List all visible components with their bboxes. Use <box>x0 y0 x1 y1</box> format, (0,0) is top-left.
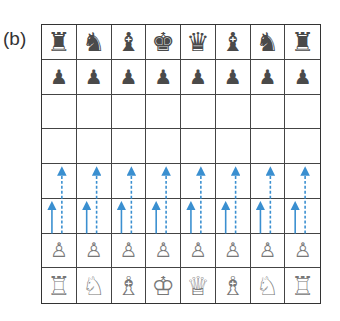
white-bishop-icon: ♗ <box>221 273 244 299</box>
board-square: ♟ <box>77 60 112 95</box>
board-square <box>112 129 147 164</box>
board-square <box>216 129 251 164</box>
board-square: ♙ <box>77 234 112 269</box>
board-square: ♟ <box>285 60 320 95</box>
black-pawn-icon: ♟ <box>294 67 312 87</box>
board-square: ♙ <box>216 234 251 269</box>
black-bishop-icon: ♝ <box>117 29 140 55</box>
board-square <box>285 95 320 130</box>
black-pawn-icon: ♟ <box>189 67 207 87</box>
board-square <box>216 164 251 199</box>
black-rook-icon: ♜ <box>47 29 70 55</box>
board-square: ♟ <box>181 60 216 95</box>
board-grid: ♜♞♝♚♛♝♞♜♟♟♟♟♟♟♟♟♙♙♙♙♙♙♙♙♖♘♗♔♕♗♘♖ <box>42 25 320 303</box>
board-square <box>77 199 112 234</box>
board-square: ♙ <box>251 234 286 269</box>
board-square: ♛ <box>181 25 216 60</box>
black-knight-icon: ♞ <box>82 29 105 55</box>
board-square <box>251 164 286 199</box>
board-square <box>285 129 320 164</box>
board-square: ♖ <box>285 268 320 303</box>
board-square <box>181 95 216 130</box>
black-knight-icon: ♞ <box>256 29 279 55</box>
white-pawn-icon: ♙ <box>189 240 207 260</box>
black-queen-icon: ♛ <box>186 29 209 55</box>
white-pawn-icon: ♙ <box>294 240 312 260</box>
board-square: ♞ <box>251 25 286 60</box>
white-pawn-icon: ♙ <box>85 240 103 260</box>
board-square: ♟ <box>112 60 147 95</box>
board-square <box>285 164 320 199</box>
board-square: ♞ <box>77 25 112 60</box>
white-rook-icon: ♖ <box>291 273 314 299</box>
board-square <box>77 164 112 199</box>
board-square <box>112 95 147 130</box>
board-square <box>146 129 181 164</box>
board-square: ♗ <box>216 268 251 303</box>
board-square <box>181 164 216 199</box>
black-king-icon: ♚ <box>151 29 174 55</box>
board-square: ♙ <box>112 234 147 269</box>
board-square: ♙ <box>181 234 216 269</box>
board-square: ♝ <box>112 25 147 60</box>
board-square: ♔ <box>146 268 181 303</box>
board-square: ♜ <box>285 25 320 60</box>
board-square: ♘ <box>251 268 286 303</box>
board-square <box>251 95 286 130</box>
black-pawn-icon: ♟ <box>119 67 137 87</box>
black-pawn-icon: ♟ <box>258 67 276 87</box>
black-pawn-icon: ♟ <box>50 67 68 87</box>
white-pawn-icon: ♙ <box>258 240 276 260</box>
board-square: ♟ <box>146 60 181 95</box>
board-square: ♝ <box>216 25 251 60</box>
board-square <box>181 199 216 234</box>
white-knight-icon: ♘ <box>82 273 105 299</box>
board-square: ♟ <box>216 60 251 95</box>
board-square <box>216 95 251 130</box>
board-square: ♟ <box>42 60 77 95</box>
board-square <box>181 129 216 164</box>
board-square: ♟ <box>251 60 286 95</box>
white-pawn-icon: ♙ <box>50 240 68 260</box>
black-bishop-icon: ♝ <box>221 29 244 55</box>
board-square: ♖ <box>42 268 77 303</box>
white-bishop-icon: ♗ <box>117 273 140 299</box>
board-square <box>216 199 251 234</box>
black-pawn-icon: ♟ <box>154 67 172 87</box>
board-square: ♜ <box>42 25 77 60</box>
board-square: ♚ <box>146 25 181 60</box>
white-knight-icon: ♘ <box>256 273 279 299</box>
black-pawn-icon: ♟ <box>224 67 242 87</box>
board-square: ♙ <box>42 234 77 269</box>
board-square <box>112 199 147 234</box>
white-pawn-icon: ♙ <box>154 240 172 260</box>
white-queen-icon: ♕ <box>186 273 209 299</box>
board-square: ♗ <box>112 268 147 303</box>
board-square: ♙ <box>285 234 320 269</box>
board-square: ♘ <box>77 268 112 303</box>
board-square <box>42 164 77 199</box>
board-square <box>146 199 181 234</box>
figure-label: (b) <box>3 28 26 50</box>
board-square <box>112 164 147 199</box>
board-square <box>146 164 181 199</box>
board-square <box>251 129 286 164</box>
white-pawn-icon: ♙ <box>119 240 137 260</box>
board-square <box>285 199 320 234</box>
board-square <box>42 129 77 164</box>
white-rook-icon: ♖ <box>47 273 70 299</box>
white-pawn-icon: ♙ <box>224 240 242 260</box>
white-king-icon: ♔ <box>151 273 174 299</box>
board-square: ♙ <box>146 234 181 269</box>
board-square <box>42 199 77 234</box>
board-square <box>77 129 112 164</box>
chess-board: ♜♞♝♚♛♝♞♜♟♟♟♟♟♟♟♟♙♙♙♙♙♙♙♙♖♘♗♔♕♗♘♖ <box>41 24 321 304</box>
board-square <box>77 95 112 130</box>
black-pawn-icon: ♟ <box>85 67 103 87</box>
board-square <box>146 95 181 130</box>
board-square <box>42 95 77 130</box>
black-rook-icon: ♜ <box>291 29 314 55</box>
board-square: ♕ <box>181 268 216 303</box>
board-square <box>251 199 286 234</box>
